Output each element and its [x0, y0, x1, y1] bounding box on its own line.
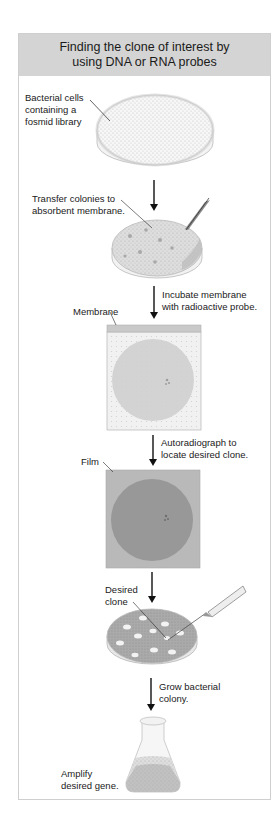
label-line: Amplify [61, 768, 119, 780]
film-icon [106, 470, 200, 568]
label-grow-colony: Grow bacterial colony. [159, 681, 220, 705]
arrow-down-icon [147, 678, 155, 711]
arrow-down-icon [149, 435, 157, 466]
label-line: desired gene. [61, 780, 119, 792]
arrow-down-icon [148, 572, 156, 603]
label-line: Incubate membrane [162, 289, 257, 301]
label-desired-clone: Desired clone [105, 584, 138, 608]
label-bacterial-cells: Bacterial cells containing a fosmid libr… [25, 92, 84, 128]
membrane-icon [107, 325, 201, 430]
label-line: with radioactive probe. [162, 301, 257, 313]
label-transfer-colonies: Transfer colonies to absorbent membrane. [32, 193, 125, 217]
label-incubate: Incubate membrane with radioactive probe… [162, 289, 257, 313]
label-line: Desired [105, 584, 138, 596]
label-line: colony. [159, 693, 220, 705]
label-amplify: Amplify desired gene. [61, 768, 119, 792]
label-line: Membrane [73, 306, 118, 318]
label-line: Grow bacterial [159, 681, 220, 693]
colony-plate-icon [107, 609, 197, 664]
label-autoradiograph: Autoradiograph to locate desired clone. [161, 437, 248, 461]
label-line: locate desired clone. [161, 449, 248, 461]
label-line: containing a [25, 104, 84, 116]
label-line: Transfer colonies to [32, 193, 125, 205]
pipette-icon [168, 586, 246, 640]
label-line: absorbent membrane. [32, 205, 125, 217]
label-line: Bacterial cells [25, 92, 84, 104]
label-line: clone [105, 596, 138, 608]
arrow-down-icon [150, 180, 158, 211]
label-membrane: Membrane [73, 306, 118, 318]
label-line: Autoradiograph to [161, 437, 248, 449]
label-line: Film [81, 456, 99, 468]
label-film: Film [81, 456, 99, 468]
forceps-icon [185, 198, 210, 230]
arrow-down-icon [150, 286, 158, 319]
label-line: fosmid library [25, 116, 84, 128]
petri-dish-icon [97, 95, 213, 165]
flask-icon [126, 717, 180, 792]
